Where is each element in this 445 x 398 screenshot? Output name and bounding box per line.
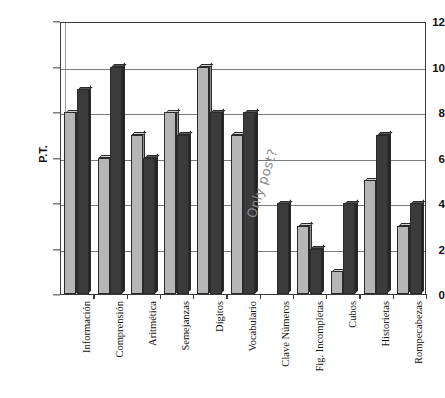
x-axis-label: Clave Números <box>280 301 291 367</box>
bar-face <box>397 226 409 294</box>
bar-face <box>77 89 89 294</box>
bar-pre <box>364 180 376 294</box>
x-axis-label: Información <box>81 301 92 353</box>
bar-face <box>310 249 322 295</box>
y-tick-mark <box>53 158 60 159</box>
y-tick-mark <box>53 112 60 113</box>
x-axis-label: Vocabulario <box>247 301 258 352</box>
x-tick-mark <box>93 294 94 299</box>
bar-pre <box>98 158 110 295</box>
bar-group <box>294 23 327 294</box>
x-axis-label: Semejanzas <box>180 301 191 351</box>
bar-post <box>143 158 155 295</box>
x-axis-label: Rompecabezas <box>413 301 424 364</box>
y-tick-mark <box>53 294 60 295</box>
bar-cap <box>244 110 259 113</box>
bar-face <box>64 112 76 294</box>
bar-group <box>360 23 393 294</box>
x-tick-mark <box>293 294 294 299</box>
bar-cap <box>411 201 426 204</box>
bar-post <box>376 135 388 294</box>
bar-group <box>61 23 94 294</box>
plot-area <box>60 22 426 295</box>
x-tick-mark <box>326 294 327 299</box>
x-tick-mark <box>359 294 360 299</box>
bar-group <box>327 23 360 294</box>
bar-face <box>110 67 122 295</box>
bar-face <box>277 203 289 294</box>
bar-pre <box>197 67 209 295</box>
x-tick-mark <box>393 294 394 299</box>
bar-pre <box>231 135 243 294</box>
bar-group <box>194 23 227 294</box>
bar-face <box>164 112 176 294</box>
bar-group <box>128 23 161 294</box>
bar-post <box>410 203 422 294</box>
x-axis-label: Historietas <box>380 301 391 347</box>
y-tick-mark <box>53 249 60 250</box>
bar-face <box>197 67 209 295</box>
x-axis-labels: InformaciónComprensiónAritméticaSemejanz… <box>60 301 426 396</box>
bar-post <box>343 203 355 294</box>
bar-face <box>143 158 155 295</box>
bar-cap <box>165 110 180 113</box>
bar-cap <box>344 201 359 204</box>
bar-cap <box>278 201 293 204</box>
bar-pre <box>131 135 143 294</box>
bar-post <box>177 135 189 294</box>
x-tick-mark <box>127 294 128 299</box>
x-tick-mark <box>160 294 161 299</box>
x-axis-label: Dígitos <box>214 301 225 332</box>
bar-group <box>394 23 427 294</box>
bar-pre <box>164 112 176 294</box>
bar-face <box>297 226 309 294</box>
bar-post <box>110 67 122 295</box>
bar-face <box>364 180 376 294</box>
bar-face <box>343 203 355 294</box>
y-tick-mark <box>53 21 60 22</box>
bar-pre <box>397 226 409 294</box>
y-tick-mark <box>53 67 60 68</box>
bar-group <box>94 23 127 294</box>
bar-face <box>210 112 222 294</box>
bar-post <box>77 89 89 294</box>
x-tick-mark <box>193 294 194 299</box>
bar-pre <box>331 271 343 294</box>
bar-post <box>210 112 222 294</box>
bar-face <box>131 135 143 294</box>
x-axis-label: Cubos <box>347 301 358 328</box>
x-tick-mark <box>226 294 227 299</box>
bar-post <box>277 203 289 294</box>
y-axis-title: P.T. <box>37 124 49 184</box>
x-axis-label: Fig. Incompletas <box>314 301 325 372</box>
bar-face <box>98 158 110 295</box>
bar-post <box>310 249 322 295</box>
bar-face <box>177 135 189 294</box>
bar-group <box>161 23 194 294</box>
bar-face <box>376 135 388 294</box>
bar-pre <box>297 226 309 294</box>
bar-pre <box>64 112 76 294</box>
x-tick-mark <box>260 294 261 299</box>
bar-group <box>227 23 260 294</box>
bar-cap <box>111 64 126 67</box>
y-tick-mark <box>53 203 60 204</box>
x-tick-mark <box>426 294 427 299</box>
bars-layer <box>61 23 425 294</box>
x-axis-label: Comprensión <box>114 301 125 358</box>
bar-chart: P.T. 024681012 InformaciónComprensiónAri… <box>0 0 445 398</box>
bar-face <box>231 135 243 294</box>
bar-face <box>331 271 343 294</box>
bar-face <box>410 203 422 294</box>
x-axis-label: Aritmética <box>147 301 158 346</box>
